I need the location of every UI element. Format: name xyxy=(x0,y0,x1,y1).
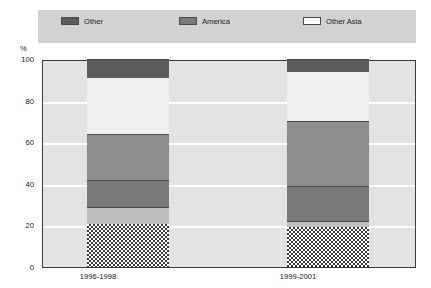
bar-segment-other xyxy=(87,59,169,78)
legend-swatch-america xyxy=(179,17,197,25)
legend-item-other: Other xyxy=(61,14,179,28)
y-axis-unit-label: % xyxy=(20,44,27,53)
y-tick-100: 100 xyxy=(0,56,34,64)
bar-segment-far-east-asia xyxy=(287,121,369,185)
legend-label: America xyxy=(202,17,230,26)
bar-1996-1998[interactable] xyxy=(87,59,169,267)
x-axis-label-1: 1999-2001 xyxy=(238,272,358,281)
x-axis-label-0: 1996-1998 xyxy=(38,272,158,281)
y-tick-40: 40 xyxy=(0,181,34,189)
legend-label: Other xyxy=(84,17,103,26)
bar-segment-sub-saharan-africa xyxy=(87,224,169,267)
bar-segment-other-africa xyxy=(87,207,169,225)
y-tick-80: 80 xyxy=(0,98,34,106)
bar-segment-far-east-asia xyxy=(87,134,169,180)
stacked-bar-chart: OtherAmericaOther AsiaOther AfricaFar Ea… xyxy=(0,0,431,288)
bar-segment-sub-saharan-africa xyxy=(287,227,369,267)
bar-segment-other-asia xyxy=(87,78,169,134)
bar-segment-other-asia xyxy=(287,72,369,122)
bar-segment-other xyxy=(287,59,369,71)
y-tick-60: 60 xyxy=(0,139,34,147)
y-tick-20: 20 xyxy=(0,222,34,230)
chart-legend: OtherAmericaOther AsiaOther AfricaFar Ea… xyxy=(38,10,416,43)
legend-swatch-other-asia xyxy=(303,17,321,25)
legend-item-other-asia: Other Asia xyxy=(303,14,431,28)
bar-segment-america xyxy=(287,186,369,221)
legend-item-america: America xyxy=(179,14,303,28)
legend-items: OtherAmericaOther AsiaOther AfricaFar Ea… xyxy=(61,14,431,28)
legend-swatch-other xyxy=(61,17,79,25)
bar-1999-2001[interactable] xyxy=(287,59,369,267)
plot-area xyxy=(42,60,416,268)
y-axis-ticks: 100806040200 xyxy=(0,60,38,268)
bar-segment-america xyxy=(87,180,169,207)
legend-label: Other Asia xyxy=(326,17,361,26)
y-tick-0: 0 xyxy=(0,264,34,272)
